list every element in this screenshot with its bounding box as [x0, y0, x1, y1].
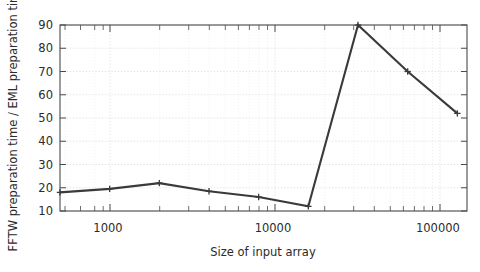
y-axis-title: FFTW preparation time / EML preparation … [6, 0, 20, 251]
y-tick-label: 80 [38, 41, 53, 55]
y-tick-label: 90 [38, 18, 53, 32]
line-chart-svg: 102030405060708090 100010000100000 Size … [0, 0, 480, 272]
x-axis-tick-labels: 100010000100000 [93, 221, 460, 235]
y-tick-label: 20 [38, 181, 53, 195]
y-axis-tick-labels: 102030405060708090 [38, 18, 53, 218]
y-tick-label: 50 [38, 111, 53, 125]
x-tick-label: 100000 [416, 221, 460, 235]
y-tick-label: 60 [38, 88, 53, 102]
x-tick-label: 10000 [255, 221, 292, 235]
x-axis-title: Size of input array [210, 245, 316, 259]
y-tick-label: 10 [38, 204, 53, 218]
y-tick-label: 40 [38, 134, 53, 148]
x-tick-label: 1000 [93, 221, 122, 235]
chart-figure: 102030405060708090 100010000100000 Size … [0, 0, 480, 272]
y-tick-label: 30 [38, 158, 53, 172]
y-tick-label: 70 [38, 65, 53, 79]
